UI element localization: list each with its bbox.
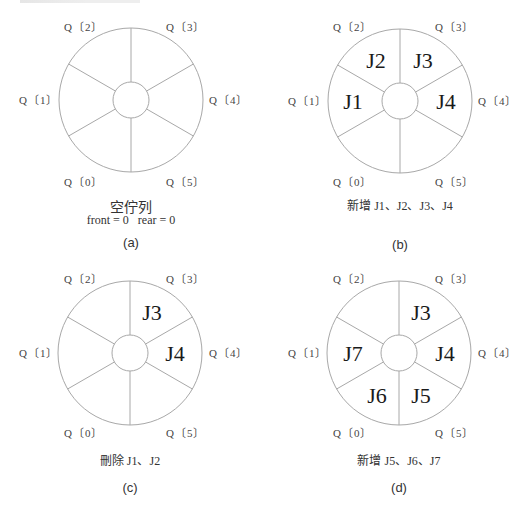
- panel-a-pointer-values: front = 0 rear = 0: [87, 213, 176, 228]
- slot-label-q0: Q〔0〕: [64, 176, 103, 188]
- queue-slot-4-content: J4: [165, 341, 185, 366]
- slot-label-q5: Q〔5〕: [166, 176, 205, 188]
- panel-d-caption: 新增 J5、J6、J7: [357, 451, 440, 469]
- queue-slot-3-content: J3: [142, 300, 162, 325]
- slot-label-q4: Q〔4〕: [478, 95, 517, 107]
- queue-slot-3-content: J3: [413, 48, 433, 73]
- slot-label-q2: Q〔2〕: [64, 21, 103, 33]
- panel-a-tag: (a): [123, 235, 139, 250]
- panel-d-tag: (d): [391, 480, 407, 495]
- slot-label-q3: Q〔3〕: [166, 273, 205, 285]
- slot-label-q1: Q〔1〕: [19, 94, 58, 106]
- panel-b-tag: (b): [392, 237, 408, 252]
- slot-label-q2: Q〔2〕: [64, 273, 103, 285]
- slot-label-q4: Q〔4〕: [209, 94, 248, 106]
- panel-c-caption: 刪除 J1、J2: [100, 451, 160, 469]
- queue-slot-5-content: J5: [411, 383, 431, 408]
- queue-slot-4-content: J4: [435, 341, 455, 366]
- slot-label-q0: Q〔0〕: [333, 176, 372, 188]
- panel-b-caption: 新增 J1、J2、J3、J4: [347, 196, 453, 214]
- queue-slot-0-content: J6: [367, 383, 387, 408]
- slot-label-q5: Q〔5〕: [166, 427, 205, 439]
- queue-slot-2-content: J2: [366, 48, 386, 73]
- slot-label-q5: Q〔5〕: [435, 176, 474, 188]
- slot-label-q5: Q〔5〕: [435, 427, 474, 439]
- panel-a-ring: [59, 28, 203, 172]
- queue-slot-1-content: J1: [343, 89, 363, 114]
- slot-label-q1: Q〔1〕: [288, 95, 327, 107]
- slot-label-q3: Q〔3〕: [166, 21, 205, 33]
- slot-label-q0: Q〔0〕: [333, 427, 372, 439]
- slot-label-q3: Q〔3〕: [435, 21, 474, 33]
- queue-slot-3-content: J3: [411, 300, 431, 325]
- slot-label-q2: Q〔2〕: [333, 21, 372, 33]
- slot-label-q4: Q〔4〕: [478, 347, 517, 359]
- circular-queue-diagram: Q〔2〕 Q〔3〕 Q〔1〕 Q〔4〕 Q〔0〕 Q〔5〕 Q〔2〕 Q〔3〕 …: [0, 0, 520, 507]
- slot-label-q1: Q〔1〕: [288, 347, 327, 359]
- panel-c-tag: (c): [122, 480, 137, 495]
- slot-label-q3: Q〔3〕: [435, 273, 474, 285]
- queue-slot-1-content: J7: [343, 341, 363, 366]
- slot-label-q4: Q〔4〕: [209, 347, 248, 359]
- slot-label-q1: Q〔1〕: [19, 347, 58, 359]
- queue-slot-4-content: J4: [436, 89, 456, 114]
- slot-label-q0: Q〔0〕: [64, 427, 103, 439]
- slot-label-q2: Q〔2〕: [333, 273, 372, 285]
